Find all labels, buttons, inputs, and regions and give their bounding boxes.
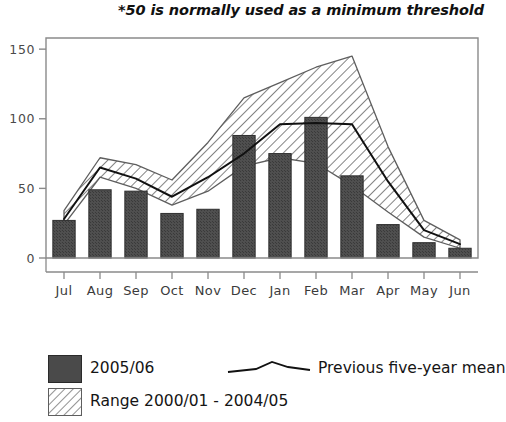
- legend-swatch-band: [48, 388, 82, 416]
- bar-Jul: [53, 220, 75, 258]
- range-band: [64, 56, 460, 248]
- x-tick-label: Jun: [448, 283, 471, 298]
- x-tick-label: Sep: [123, 283, 149, 298]
- legend-label-bar: 2005/06: [90, 359, 154, 377]
- x-tick-label: Dec: [231, 283, 257, 298]
- chart-plot-area: 050100150 JulAugSepOctNovDecJanFebMarApr…: [0, 0, 492, 340]
- x-axis: JulAugSepOctNovDecJanFebMarAprMayJun: [46, 258, 478, 298]
- y-tick-label: 100: [9, 111, 35, 126]
- x-tick-label: Feb: [304, 283, 328, 298]
- x-tick-label: Jan: [268, 283, 290, 298]
- y-tick-label: 0: [26, 251, 35, 266]
- x-tick-label: Nov: [195, 283, 222, 298]
- bar-Aug: [89, 190, 111, 258]
- x-tick-label: Oct: [160, 283, 184, 298]
- x-tick-label: Apr: [376, 283, 400, 298]
- x-tick-label: May: [410, 283, 438, 298]
- bar-Jun: [449, 248, 471, 258]
- legend-label-band: Range 2000/01 - 2004/05: [90, 392, 288, 410]
- bar-Apr: [377, 225, 399, 258]
- y-tick-label: 150: [9, 42, 35, 57]
- legend-label-line: Previous five-year mean: [318, 359, 506, 377]
- legend-swatch-bar: [48, 355, 82, 383]
- bar-Nov: [197, 209, 219, 258]
- y-tick-label: 50: [18, 181, 35, 196]
- legend-swatch-line: [226, 356, 312, 380]
- bar-Jan: [269, 154, 291, 258]
- x-tick-label: Mar: [339, 283, 365, 298]
- bar-Feb: [305, 117, 327, 258]
- bar-Oct: [161, 213, 183, 258]
- bar-May: [413, 243, 435, 258]
- threshold-note: *50 is normally used as a minimum thresh…: [0, 2, 484, 18]
- x-tick-label: Aug: [87, 283, 114, 298]
- x-tick-label: Jul: [55, 283, 73, 298]
- y-axis: 050100150: [9, 42, 46, 266]
- bar-Mar: [341, 176, 363, 258]
- bar-Sep: [125, 191, 147, 258]
